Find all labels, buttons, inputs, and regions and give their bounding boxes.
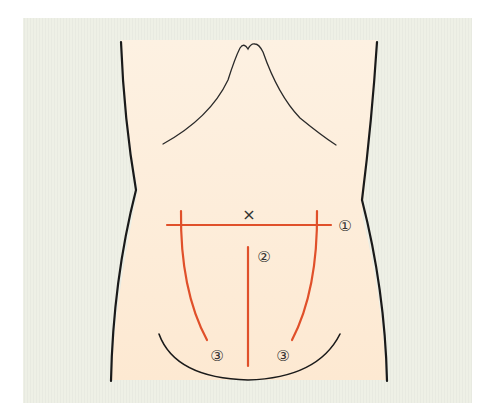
abdominal-incision-diagram: × ① ② ③ ③: [0, 0, 479, 420]
incision-3-left-label: ③: [210, 347, 223, 365]
umbilicus-marker: ×: [242, 205, 255, 224]
incision-2-label: ②: [257, 248, 270, 266]
incision-1-label: ①: [338, 217, 351, 235]
incision-3-right-label: ③: [276, 347, 289, 365]
